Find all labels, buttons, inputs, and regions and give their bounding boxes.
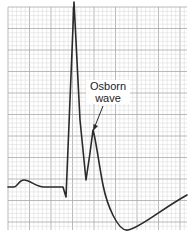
label-line-1: Osborn: [87, 80, 129, 92]
label-line-2: wave: [87, 92, 129, 104]
ecg-trace: [8, 2, 187, 230]
osborn-wave-label: Osborn wave: [86, 80, 130, 104]
ecg-diagram: [0, 0, 194, 241]
